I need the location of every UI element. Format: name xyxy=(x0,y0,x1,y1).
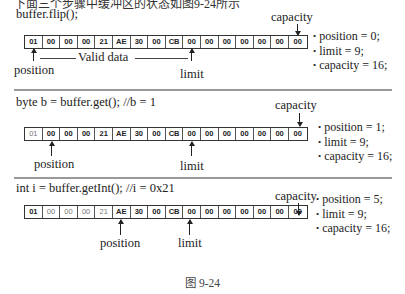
valid-data-label: Valid data xyxy=(78,50,128,65)
buffer-cell: 00 xyxy=(201,206,219,218)
code-line-flip: buffer.flip(); xyxy=(16,7,78,22)
buffer-cell: 00 xyxy=(271,128,289,140)
stats-list-getint: position = 5; limit = 9; capacity = 16; xyxy=(316,193,390,237)
buffer-cell: 00 xyxy=(60,206,78,218)
capacity-arrow-icon xyxy=(297,24,298,35)
buffer-cell: 30 xyxy=(131,128,149,140)
stat-limit: limit = 9; xyxy=(318,136,392,151)
buffer-cell: 00 xyxy=(254,36,272,48)
position-arrow-icon xyxy=(51,142,52,156)
buffer-cell: AE xyxy=(113,36,131,48)
separator xyxy=(14,177,392,179)
buffer-cell: 00 xyxy=(183,36,201,48)
buffer-cell: 00 xyxy=(254,128,272,140)
stat-limit: limit = 9; xyxy=(313,45,387,60)
capacity-label: capacity xyxy=(275,189,317,204)
buffer-row-get: 0100000021AE3000CB00000000000000 xyxy=(24,127,308,141)
code-line-getint: int i = buffer.getInt(); //i = 0x21 xyxy=(16,181,175,196)
buffer-cell: 00 xyxy=(78,128,96,140)
buffer-cell: 00 xyxy=(201,36,219,48)
capacity-label: capacity xyxy=(271,10,313,25)
limit-label: limit xyxy=(178,236,202,251)
limit-label: limit xyxy=(180,67,204,82)
buffer-row-flip: 0100000021AE3000CB00000000000000 xyxy=(24,35,308,49)
buffer-cell: 00 xyxy=(148,128,166,140)
buffer-cell: AE xyxy=(113,128,131,140)
buffer-cell: 00 xyxy=(289,36,307,48)
position-arrow-icon xyxy=(33,49,34,61)
buffer-cell: 01 xyxy=(25,128,43,140)
limit-arrow-icon xyxy=(191,142,192,156)
buffer-cell: 00 xyxy=(236,36,254,48)
capacity-arrow-icon xyxy=(299,113,300,126)
stat-capacity: capacity = 16; xyxy=(313,59,387,74)
stat-position: position = 5; xyxy=(316,193,390,208)
position-arrow-icon xyxy=(120,220,121,235)
buffer-cell: 00 xyxy=(148,36,166,48)
buffer-cell: 00 xyxy=(236,128,254,140)
buffer-cell: 00 xyxy=(43,128,61,140)
buffer-cell: 00 xyxy=(60,128,78,140)
stat-capacity: capacity = 16; xyxy=(318,150,392,165)
buffer-cell: 00 xyxy=(219,128,237,140)
buffer-cell: CB xyxy=(166,206,184,218)
buffer-cell: 30 xyxy=(131,36,149,48)
buffer-cell: 00 xyxy=(236,206,254,218)
buffer-cell: 01 xyxy=(25,36,43,48)
buffer-cell: CB xyxy=(166,36,184,48)
buffer-cell: CB xyxy=(166,128,184,140)
buffer-cell: AE xyxy=(113,206,131,218)
limit-arrow-icon xyxy=(189,220,190,235)
buffer-cell: 00 xyxy=(271,36,289,48)
buffer-cell: 00 xyxy=(201,128,219,140)
buffer-cell: 00 xyxy=(254,206,272,218)
buffer-cell: 00 xyxy=(183,206,201,218)
buffer-cell: 21 xyxy=(95,36,113,48)
stats-list-get: position = 1; limit = 9; capacity = 16; xyxy=(318,121,392,165)
buffer-cell: 00 xyxy=(289,128,307,140)
buffer-cell: 00 xyxy=(78,36,96,48)
stat-capacity: capacity = 16; xyxy=(316,222,390,237)
buffer-cell: 00 xyxy=(43,36,61,48)
buffer-cell: 00 xyxy=(271,206,289,218)
buffer-cell: 00 xyxy=(43,206,61,218)
buffer-cell: 00 xyxy=(60,36,78,48)
stat-position: position = 1; xyxy=(318,121,392,136)
separator xyxy=(14,89,392,91)
buffer-cell: 21 xyxy=(95,206,113,218)
position-label: position xyxy=(34,157,74,172)
position-label: position xyxy=(100,236,140,251)
valid-data-line-right xyxy=(135,58,188,59)
buffer-cell: 00 xyxy=(183,128,201,140)
figure-caption: 图 9-24 xyxy=(0,274,405,290)
stats-list-flip: position = 0; limit = 9; capacity = 16; xyxy=(313,30,387,74)
buffer-cell: 00 xyxy=(148,206,166,218)
position-label: position xyxy=(14,63,54,78)
buffer-cell: 01 xyxy=(25,206,43,218)
code-line-get: byte b = buffer.get(); //b = 1 xyxy=(16,95,156,110)
buffer-row-getint: 0100000021AE3000CB00000000000000 xyxy=(24,205,308,219)
buffer-cell: 00 xyxy=(219,36,237,48)
stat-position: position = 0; xyxy=(313,30,387,45)
limit-arrow-icon xyxy=(191,49,192,61)
buffer-cell: 00 xyxy=(78,206,96,218)
limit-label: limit xyxy=(180,159,204,174)
buffer-cell: 21 xyxy=(95,128,113,140)
capacity-label: capacity xyxy=(275,98,317,113)
stat-limit: limit = 9; xyxy=(316,208,390,223)
buffer-cell: 00 xyxy=(289,206,307,218)
valid-data-line-left xyxy=(40,58,76,59)
buffer-cell: 00 xyxy=(219,206,237,218)
buffer-cell: 30 xyxy=(131,206,149,218)
